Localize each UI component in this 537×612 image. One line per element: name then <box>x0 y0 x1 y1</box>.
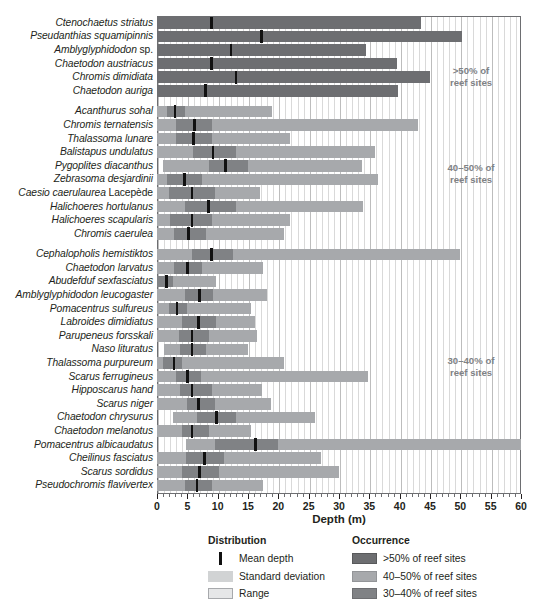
mean-depth-marker <box>198 466 201 479</box>
group-note-40-50: 40–50% ofreef sites <box>423 162 519 185</box>
species-bar <box>157 187 521 199</box>
chart-row: Chromis ternatensis <box>0 118 537 132</box>
chart-row: Cephalopholis hemistiktos <box>0 248 537 262</box>
axis-tick-minor <box>272 494 273 497</box>
axis-tick-label: 10 <box>212 500 224 512</box>
mean-depth-marker <box>254 438 257 451</box>
species-label: Scarus ferrugineus <box>68 371 153 381</box>
axis-tick-major <box>309 494 310 499</box>
axis-tick-minor <box>206 494 207 497</box>
species-bar <box>157 214 521 226</box>
group-note-line: 40–50% of <box>423 162 519 174</box>
species-bar <box>157 289 521 301</box>
axis-tick-label: 35 <box>363 500 375 512</box>
species-label: Chromis ternatensis <box>63 120 153 130</box>
species-bar <box>157 303 521 315</box>
axis-tick-minor <box>199 494 200 497</box>
group-separator <box>0 241 537 248</box>
species-bar <box>157 466 521 478</box>
species-label: Acanthurus sohal <box>75 106 153 116</box>
axis-tick-major <box>491 494 492 499</box>
occurrence-40-50-swatch-icon <box>352 571 377 582</box>
chart-row: Abudefduf sexfasciatus <box>0 275 537 289</box>
axis-tick-minor <box>406 494 407 497</box>
legend-item-occ-30-40: 30–40% of reef sites <box>352 586 477 601</box>
legend: Distribution Mean depth Standard deviati… <box>0 535 537 612</box>
axis-tick-major <box>187 494 188 499</box>
axis-tick-label: 40 <box>394 500 406 512</box>
species-label: Labroides dimidiatus <box>61 317 153 327</box>
mean-depth-marker <box>186 262 189 275</box>
mean-depth-marker <box>173 357 176 370</box>
mean-depth-marker <box>197 316 200 329</box>
axis-tick-minor <box>394 494 395 497</box>
mean-depth-marker <box>260 30 263 43</box>
axis-tick-major <box>248 494 249 499</box>
axis-tick-minor <box>284 494 285 497</box>
species-bar <box>157 262 521 274</box>
mean-depth-marker <box>191 330 194 343</box>
mean-depth-marker <box>215 411 218 424</box>
axis-tick-minor <box>436 494 437 497</box>
species-label: Pomacentrus albicaudatus <box>34 439 153 449</box>
legend-label-sd: Standard deviation <box>239 571 325 582</box>
chart-row: Pseudochromis flavivertex <box>0 479 537 493</box>
legend-item-occ-40-50: 40–50% of reef sites <box>352 569 477 584</box>
species-label: Hipposcarus hand <box>72 385 153 395</box>
axis-tick-label: 0 <box>154 500 160 512</box>
group-note-gt50: >50% ofreef sites <box>423 65 519 88</box>
mean-depth-marker <box>204 84 207 97</box>
range-segment <box>157 31 462 43</box>
legend-label-mean: Mean depth <box>239 553 293 564</box>
axis-tick-minor <box>242 494 243 497</box>
axis-tick-minor <box>466 494 467 497</box>
sd-segment <box>215 439 279 451</box>
species-label: Cephalopholis hemistiktos <box>36 249 153 259</box>
species-label: Pseudanthias squamipinnis <box>30 31 153 41</box>
chart-row: Cheilinus fasciatus <box>0 451 537 465</box>
axis-tick-major <box>521 494 522 499</box>
chart-root: Ctenochaetus striatusPseudanthias squami… <box>0 0 537 612</box>
mean-depth-marker <box>174 105 177 118</box>
range-segment <box>163 160 362 172</box>
mean-depth-marker <box>210 248 213 261</box>
axis-tick-minor <box>254 494 255 497</box>
range-segment <box>157 85 398 97</box>
chart-row: Halichoeres scapularis <box>0 213 537 227</box>
sd-segment <box>179 330 209 342</box>
axis-tick-major <box>369 494 370 499</box>
species-label: Pseudochromis flavivertex <box>35 480 153 490</box>
mean-depth-marker <box>193 119 196 132</box>
mean-depth-marker <box>230 44 233 57</box>
axis-tick-minor <box>345 494 346 497</box>
range-segment <box>157 58 397 70</box>
axis-tick-label: 45 <box>424 500 436 512</box>
axis-tick-major <box>430 494 431 499</box>
species-bar <box>157 44 521 56</box>
axis-tick-minor <box>479 494 480 497</box>
mean-depth-marker <box>192 132 195 145</box>
axis-tick-minor <box>230 494 231 497</box>
axis-tick-label: 25 <box>303 500 315 512</box>
legend-occurrence-title: Occurrence <box>352 535 477 546</box>
species-bar <box>157 228 521 240</box>
axis-tick-minor <box>169 494 170 497</box>
legend-label-occ-30-40: 30–40% of reef sites <box>383 588 477 599</box>
species-label: Amblyglyphidodon sp. <box>54 45 153 55</box>
axis-tick-minor <box>290 494 291 497</box>
axis-tick-label: 15 <box>242 500 254 512</box>
range-segment <box>157 146 375 158</box>
axis-tick-minor <box>321 494 322 497</box>
axis-tick-minor <box>193 494 194 497</box>
range-segment <box>157 452 321 464</box>
chart-row: Balistapus undulatus <box>0 145 537 159</box>
species-bar <box>157 201 521 213</box>
range-segment <box>164 344 248 356</box>
chart-row: Amblyglyphidodon leucogaster <box>0 288 537 302</box>
species-label: Amblyglyphidodon leucogaster <box>16 290 153 300</box>
axis-tick-minor <box>303 494 304 497</box>
species-label: Chromis dimidiata <box>72 72 153 82</box>
chart-row: Hipposcarus hand <box>0 383 537 397</box>
species-label: Pomacentrus sulfureus <box>50 304 153 314</box>
occurrence-gt50-swatch-icon <box>352 553 377 564</box>
